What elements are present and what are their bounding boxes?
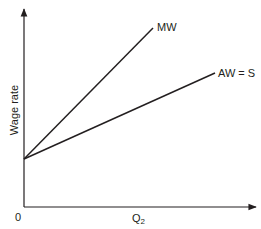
x-axis-label-sub: 2 bbox=[141, 217, 145, 226]
x-axis-label: Q2 bbox=[132, 213, 145, 226]
mw-label: MW bbox=[157, 22, 177, 33]
wage-chart bbox=[0, 0, 261, 229]
origin-label: 0 bbox=[15, 212, 21, 223]
y-axis-label: Wage rate bbox=[8, 85, 20, 135]
aw-supply-line bbox=[24, 73, 215, 159]
x-axis-label-main: Q bbox=[132, 212, 141, 224]
mw-line bbox=[24, 28, 153, 159]
aw-supply-label: AW = S bbox=[218, 68, 255, 79]
